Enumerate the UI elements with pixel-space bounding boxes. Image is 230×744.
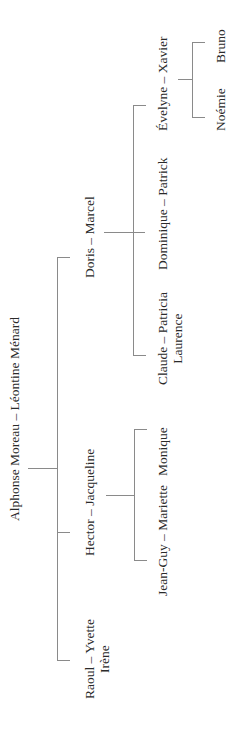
bracket-tick-doris [57, 257, 70, 258]
root-couple-label: Alphonse Moreau – Léontine Ménard [7, 317, 22, 521]
bracket-tick-jean-guy [134, 560, 147, 561]
bracket-tick-raoul [57, 660, 70, 661]
bracket-tick-hector [57, 532, 70, 533]
evelyne-connector [178, 79, 192, 80]
family-node-jean-guy: Jean-Guy – Mariette [155, 485, 170, 596]
root-connector [28, 468, 57, 469]
child-label: Laurence [170, 292, 185, 385]
family-node-bruno: Bruno [213, 29, 228, 63]
evelyne-children-bracket [192, 42, 193, 117]
family-node-doris: Doris – Marcel [82, 196, 97, 278]
bracket-tick-monique [134, 429, 147, 430]
couple-label: Claude – Patricia [155, 292, 170, 385]
bracket-tick-evelyne [133, 105, 146, 106]
family-node-monique: Monique [155, 427, 170, 476]
family-node-raoul: Raoul – Yvette Irène [82, 619, 112, 699]
generation-2-bracket [57, 257, 58, 660]
family-node-dominique: Dominique – Patrick [155, 158, 170, 270]
family-node-evelyne: Évelyne – Xavier [155, 37, 170, 131]
doris-children-bracket [133, 105, 134, 355]
doris-connector [104, 232, 145, 233]
hector-children-bracket [134, 429, 135, 560]
family-node-claude: Claude – Patricia Laurence [155, 292, 185, 385]
family-node-noemie: Noémie [213, 88, 228, 131]
couple-label: Raoul – Yvette [82, 619, 97, 699]
child-label: Irène [97, 619, 112, 699]
bracket-tick-bruno [192, 42, 205, 43]
hector-connector [106, 495, 134, 496]
family-node-hector: Hector – Jacqueline [82, 449, 97, 556]
bracket-tick-noemie [192, 117, 205, 118]
bracket-tick-claude [133, 355, 146, 356]
